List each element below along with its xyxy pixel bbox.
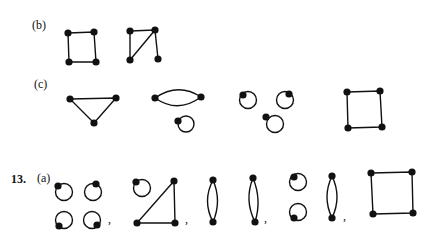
- graph-13a-two-digons: [208, 178, 259, 222]
- graph-c-triangle: [70, 98, 116, 123]
- graph-b-square: [68, 32, 96, 62]
- graph-13a-square: [371, 172, 413, 214]
- graph-c-three-loops: [240, 92, 294, 133]
- graph-13a-loop-triangle: [134, 180, 176, 224]
- graph-c-square: [347, 91, 382, 128]
- graph-b-triangle-pendant: [130, 30, 158, 60]
- graph-13a-loops-digon: [290, 174, 338, 221]
- graph-13a-four-loops: [56, 184, 102, 229]
- graph-figures: [0, 0, 431, 247]
- graph-c-digon-loop: [155, 90, 201, 132]
